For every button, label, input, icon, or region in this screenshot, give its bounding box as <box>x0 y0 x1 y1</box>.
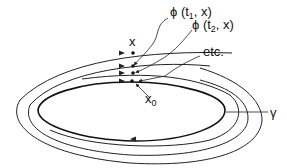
label-x: x <box>129 34 136 49</box>
label-etc: etc. <box>203 44 224 59</box>
label-gamma: γ <box>270 105 277 120</box>
label-phi-t2: ϕ (t2, x) <box>192 17 234 34</box>
flow-arrows <box>119 51 136 142</box>
label-x0: x0 <box>145 91 157 108</box>
trajectory-inner <box>50 75 239 146</box>
periodic-orbit-gamma <box>38 82 225 141</box>
phase-portrait: ϕ (t1, x) ϕ (t2, x) x etc. x0 γ <box>0 0 287 168</box>
diagram-canvas: ϕ (t1, x) ϕ (t2, x) x etc. x0 γ <box>0 0 287 168</box>
